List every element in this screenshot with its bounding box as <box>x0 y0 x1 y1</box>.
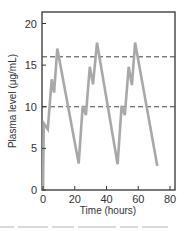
y-tick-label: 5 <box>31 142 37 154</box>
x-axis-ticks: 020406080 <box>40 186 176 205</box>
reference-lines <box>42 57 175 107</box>
y-tick-label: 20 <box>25 18 37 30</box>
x-tick-label: 60 <box>132 193 144 205</box>
x-axis-title: Time (hours) <box>80 205 136 216</box>
x-tick-label: 40 <box>100 193 112 205</box>
plasma-level-chart: 020406080 05101520 Time (hours) Plasma l… <box>0 0 187 231</box>
y-axis-title: Plasma level (μg/mL) <box>7 54 18 148</box>
y-tick-label: 10 <box>25 101 37 113</box>
x-tick-label: 80 <box>164 193 176 205</box>
figure-caption-cropped <box>0 226 187 231</box>
plasma-level-line <box>43 43 157 190</box>
y-tick-label: 15 <box>25 59 37 71</box>
plot-frame <box>42 12 175 190</box>
data-series <box>43 43 157 190</box>
x-tick-label: 20 <box>69 193 81 205</box>
plot-border <box>42 12 175 190</box>
y-tick-label: 0 <box>31 184 37 196</box>
x-tick-label: 0 <box>40 193 46 205</box>
